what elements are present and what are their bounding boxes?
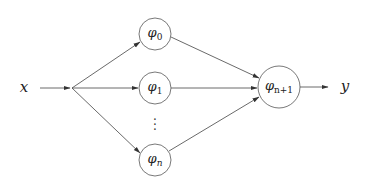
phi-symbol: φ — [265, 78, 274, 93]
subscript: n — [157, 158, 163, 168]
edge-phin-to-phin1 — [169, 97, 259, 151]
phi-symbol: φ — [148, 25, 157, 40]
output-label: y — [341, 79, 349, 94]
network-diagram: x y φ0 φ1 φn φn+1 · · · — [0, 0, 366, 191]
node-phin-label: φn — [148, 152, 163, 168]
edge-phi0-to-phin1 — [171, 37, 259, 78]
dot: · — [153, 128, 157, 133]
subscript: 0 — [157, 32, 163, 42]
ellipsis-vertical: · · · — [153, 118, 157, 133]
edge-junction-to-phin — [72, 88, 140, 153]
subscript: n+1 — [274, 85, 293, 95]
node-phin1-label: φn+1 — [265, 79, 293, 95]
edge-junction-to-phi0 — [72, 42, 140, 88]
subscript: 1 — [157, 86, 163, 96]
node-phi1-label: φ1 — [148, 80, 163, 96]
diagram-canvas — [0, 0, 366, 191]
node-phi0-label: φ0 — [148, 26, 163, 42]
input-label: x — [20, 80, 28, 95]
phi-symbol: φ — [148, 151, 157, 166]
phi-symbol: φ — [148, 79, 157, 94]
